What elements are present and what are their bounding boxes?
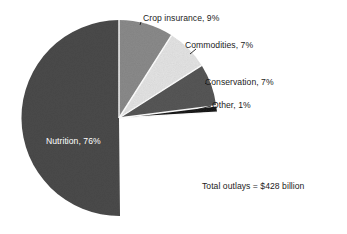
total-outlays-annotation: Total outlays = $428 billion <box>202 182 304 191</box>
pie-slice-nutrition[interactable] <box>21 20 120 216</box>
pie-chart: Crop insurance, 9% Commodities, 7% Conse… <box>0 0 347 234</box>
pie-chart-canvas <box>0 0 347 234</box>
slice-label-nutrition: Nutrition, 76% <box>46 137 101 146</box>
slice-label-other: Other, 1% <box>212 101 251 110</box>
slice-label-commodities: Commodities, 7% <box>185 41 253 50</box>
slice-label-conservation: Conservation, 7% <box>205 78 274 87</box>
slice-label-crop-insurance: Crop insurance, 9% <box>143 14 219 23</box>
